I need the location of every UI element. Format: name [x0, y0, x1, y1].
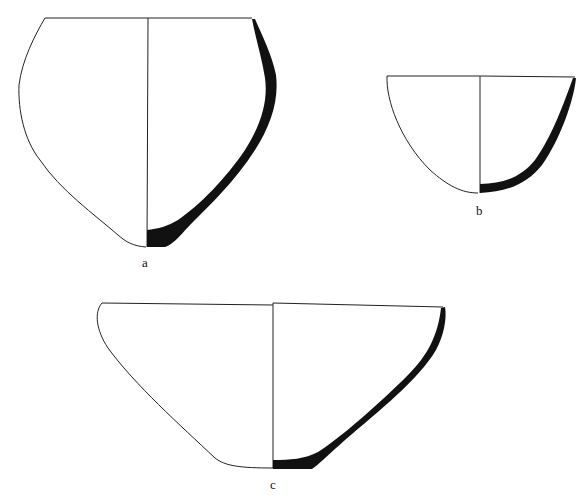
vessel-a-axis: [147, 18, 148, 247]
vessel-a-section: [147, 19, 277, 247]
vessel-c: [97, 303, 443, 468]
vessel-b-label: b: [476, 203, 483, 219]
vessel-a: [19, 18, 252, 247]
vessel-c-label: c: [270, 477, 276, 493]
vessel-b-exterior-outline: [387, 76, 480, 193]
vessel-a-label: a: [142, 255, 148, 271]
vessel-c-exterior-outline: [97, 303, 273, 468]
vessel-a-exterior-outline: [19, 18, 148, 247]
vessel-b-rim: [480, 76, 575, 77]
vessel-b: [387, 76, 575, 193]
vessel-b-section: [480, 78, 576, 193]
vessel-c-section: [273, 307, 446, 469]
pottery-profiles-drawing: [0, 0, 587, 504]
vessel-c-rim: [273, 303, 443, 307]
